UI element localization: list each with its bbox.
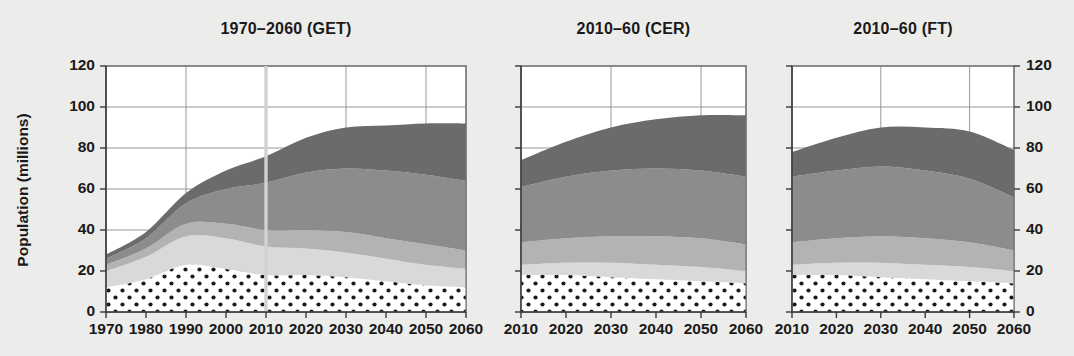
y-tick-label-right: 100 [1026,97,1052,114]
x-tick-label: 2000 [209,320,243,337]
x-tick-label: 2030 [864,320,898,337]
y-tick-label-left: 20 [78,261,95,278]
x-tick-label: 2030 [594,320,628,337]
area-series-medium [521,169,746,245]
y-tick-label-right: 40 [1026,220,1043,237]
y-tick-label-right: 20 [1026,261,1043,278]
x-tick-label: 2040 [908,320,942,337]
y-tick-label-right: 80 [1026,138,1043,155]
y-tick-label-left: 0 [86,302,95,319]
x-tick-label: 2010 [249,320,283,337]
x-tick-label: 1970 [89,320,123,337]
chart-panel-1: 1970198019902000201020202030204020502060… [69,20,483,337]
y-axis-title: Population (millions) [14,113,31,266]
x-tick-label: 2020 [289,320,323,337]
x-tick-label: 2060 [729,320,763,337]
x-tick-label: 2050 [952,320,986,337]
population-projection-figure: 1970198019902000201020202030204020502060… [0,0,1074,356]
stacked-areas [792,127,1014,312]
x-tick-label: 2040 [639,320,673,337]
x-tick-label: 2060 [449,320,483,337]
y-tick-label-left: 40 [78,220,95,237]
x-tick-label: 2010 [504,320,538,337]
y-tick-label-left: 100 [69,97,95,114]
chart-panel-3: 2010202020302040205020600204060801001202… [775,20,1052,337]
x-tick-label: 2050 [684,320,718,337]
panel-title-2: 2010–60 (CER) [577,20,691,37]
x-tick-label: 1990 [169,320,203,337]
y-tick-label-right: 60 [1026,179,1043,196]
x-tick-label: 2030 [329,320,363,337]
chart-panel-2: 2010202020302040205020602010–60 (CER) [504,20,763,337]
x-tick-label: 2040 [369,320,403,337]
y-tick-label-left: 60 [78,179,95,196]
y-tick-label-left: 120 [69,56,95,73]
chart-panels: 1970198019902000201020202030204020502060… [69,20,1052,337]
x-tick-label: 1980 [129,320,163,337]
x-tick-label: 2050 [409,320,443,337]
panel-title-1: 1970–2060 (GET) [220,20,351,37]
y-tick-label-right: 0 [1026,302,1035,319]
x-tick-label: 2060 [997,320,1031,337]
x-tick-label: 2020 [819,320,853,337]
x-tick-label: 2010 [775,320,809,337]
y-tick-label-right: 120 [1026,56,1052,73]
x-tick-label: 2020 [549,320,583,337]
panel-title-3: 2010–60 (FT) [853,20,952,37]
y-tick-label-left: 80 [78,138,95,155]
